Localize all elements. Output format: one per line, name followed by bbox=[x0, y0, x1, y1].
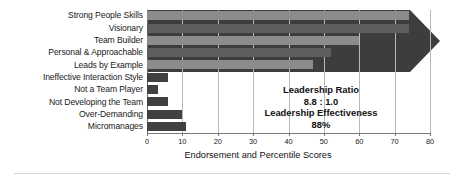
category-label: Not Developing the Team bbox=[0, 98, 143, 107]
category-label: Personal & Approachable bbox=[0, 48, 143, 57]
bar bbox=[147, 85, 158, 94]
category-label: Micromanages bbox=[0, 122, 143, 131]
bar bbox=[147, 73, 168, 82]
x-axis-title: Endorsement and Percentile Scores bbox=[0, 150, 464, 160]
bar bbox=[147, 48, 331, 57]
x-tick-label: 30 bbox=[238, 137, 268, 146]
x-tick-label: 20 bbox=[203, 137, 233, 146]
x-tick-label: 0 bbox=[132, 137, 162, 146]
bar-row bbox=[147, 73, 430, 82]
x-tick-0 bbox=[147, 133, 148, 136]
x-tick-60 bbox=[359, 133, 360, 136]
x-axis-title-text: Endorsement and Percentile Scores bbox=[184, 150, 331, 160]
bar bbox=[147, 122, 186, 131]
bar-row bbox=[147, 11, 430, 20]
x-tick-label: 70 bbox=[380, 137, 410, 146]
category-label: Ineffective Interaction Style bbox=[0, 73, 143, 82]
bar-row bbox=[147, 60, 430, 69]
annotation-line-ratio-label: Leadership Ratio bbox=[236, 84, 406, 96]
category-label: Team Builder bbox=[0, 36, 143, 45]
x-tick-label: 40 bbox=[274, 137, 304, 146]
x-tick-10 bbox=[182, 133, 183, 136]
bar bbox=[147, 110, 182, 119]
x-tick-20 bbox=[218, 133, 219, 136]
bar bbox=[147, 24, 409, 33]
annotation-line-effectiveness-label: Leadership Effectiveness bbox=[236, 107, 406, 119]
category-label: Leads by Example bbox=[0, 61, 143, 70]
x-tick-label: 50 bbox=[309, 137, 339, 146]
bar-row bbox=[147, 48, 430, 57]
bar bbox=[147, 36, 359, 45]
bar bbox=[147, 97, 168, 106]
category-label: Over-Demanding bbox=[0, 110, 143, 119]
x-tick-40 bbox=[289, 133, 290, 136]
bar-row bbox=[147, 36, 430, 45]
category-axis: Strong People SkillsVisionaryTeam Builde… bbox=[0, 10, 143, 133]
annotation-line-ratio-value: 8.8 : 1.0 bbox=[236, 96, 406, 108]
summary-annotation: Leadership Ratio 8.8 : 1.0 Leadership Ef… bbox=[236, 84, 406, 130]
bar-chart: Strong People SkillsVisionaryTeam Builde… bbox=[0, 0, 464, 179]
bottom-divider bbox=[14, 173, 450, 174]
category-label: Strong People Skills bbox=[0, 11, 143, 20]
bar bbox=[147, 60, 313, 69]
x-tick-label: 60 bbox=[344, 137, 374, 146]
x-tick-label: 10 bbox=[167, 137, 197, 146]
x-tick-70 bbox=[395, 133, 396, 136]
bar-row bbox=[147, 24, 430, 33]
x-tick-label: 80 bbox=[415, 137, 445, 146]
gridline-80 bbox=[430, 10, 431, 133]
category-label: Visionary bbox=[0, 24, 143, 33]
bar bbox=[147, 11, 409, 20]
x-tick-80 bbox=[430, 133, 431, 136]
annotation-line-effectiveness-value: 88% bbox=[236, 119, 406, 131]
category-label: Not a Team Player bbox=[0, 85, 143, 94]
x-tick-50 bbox=[324, 133, 325, 136]
x-tick-30 bbox=[253, 133, 254, 136]
